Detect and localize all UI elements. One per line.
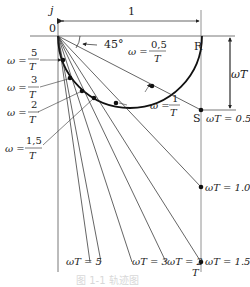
wt-10-label: ωT = 1.0: [205, 182, 250, 193]
imag-axis-label: j: [47, 4, 54, 17]
wt-2-label: ωT = 2: [167, 256, 203, 267]
omega-label-5: ω = 5 T: [7, 47, 39, 72]
omega-label-0-5: ω = 0,5 T: [128, 39, 167, 64]
svg-text:T: T: [29, 114, 37, 125]
locus-diagram: j 0 1 R ωT 45° S ωT = 0.5 ωT = 1.0 ωT = …: [0, 0, 250, 287]
rays: [58, 36, 201, 262]
svg-text:T: T: [170, 107, 178, 118]
unit-length-label: 1: [128, 5, 135, 18]
svg-text:ω =: ω =: [5, 143, 25, 154]
svg-text:5: 5: [31, 47, 37, 58]
wt-5-label: ωT = 5: [66, 256, 102, 267]
svg-text:ω =: ω =: [150, 100, 170, 111]
svg-text:T: T: [29, 61, 37, 72]
svg-text:1,5: 1,5: [26, 135, 42, 146]
svg-text:3: 3: [31, 74, 37, 85]
figure-caption: 图 1-1 轨迹图: [76, 274, 139, 286]
omega-label-2: ω = 2 T: [7, 99, 39, 125]
wt-05-label: ωT = 0.5: [206, 113, 250, 124]
point-R-label: R: [194, 40, 203, 53]
omega-label-1: ω = 1 T: [150, 93, 180, 118]
angle-label: 45°: [104, 38, 124, 51]
svg-text:ω =: ω =: [7, 55, 27, 66]
omega-label-1-5: ω = 1,5 T: [5, 135, 42, 161]
svg-text:T: T: [154, 53, 162, 64]
origin-label: 0: [49, 22, 56, 35]
omega-label-3: ω = 3 T: [7, 74, 39, 100]
svg-text:ω =: ω =: [7, 82, 27, 93]
point-S-label: S: [193, 112, 201, 125]
wt-15-label: ωT = 1.5: [205, 256, 250, 267]
t-label: T: [192, 267, 200, 278]
svg-text:0,5: 0,5: [151, 39, 167, 50]
svg-text:2: 2: [31, 99, 37, 110]
svg-text:ω =: ω =: [7, 107, 27, 118]
svg-text:ω =: ω =: [128, 46, 148, 57]
svg-text:T: T: [29, 150, 37, 161]
wt-3-label: ωT = 3: [132, 256, 168, 267]
wt-dim-label: ωT: [231, 68, 249, 81]
svg-text:1: 1: [172, 93, 178, 104]
